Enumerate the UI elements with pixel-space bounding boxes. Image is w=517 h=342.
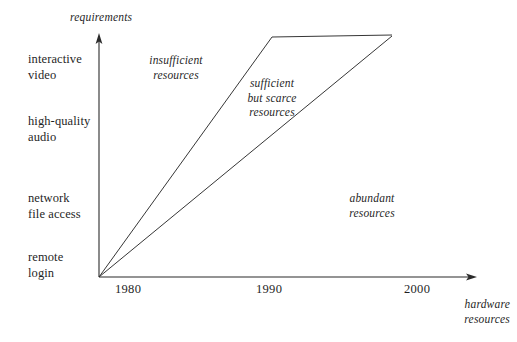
y-category-label-line1: network bbox=[28, 190, 81, 206]
y-category-remote-login: remote login bbox=[28, 249, 63, 281]
x-tick-1980: 1980 bbox=[115, 281, 141, 297]
region-label-line1: insufficient bbox=[126, 53, 226, 68]
y-category-label-line2: login bbox=[28, 265, 63, 281]
region-label-line3: resources bbox=[222, 105, 322, 120]
y-category-label-line1: remote bbox=[28, 249, 63, 265]
y-category-high-quality-audio: high-quality audio bbox=[28, 113, 90, 145]
region-label-insufficient-resources: insufficient resources bbox=[126, 53, 226, 82]
y-category-label-line2: file access bbox=[28, 206, 81, 222]
region-label-abundant-resources: abundant resources bbox=[322, 191, 422, 220]
y-category-network-file-access: network file access bbox=[28, 190, 81, 222]
region-label-line2: resources bbox=[322, 206, 422, 221]
diagram-canvas: requirements hardware resources interact… bbox=[0, 0, 517, 342]
x-axis-title-line2: resources bbox=[390, 312, 510, 327]
y-category-label-line2: audio bbox=[28, 129, 90, 145]
region-label-line1: abundant bbox=[322, 191, 422, 206]
region-label-line2: resources bbox=[126, 68, 226, 83]
y-category-label-line1: interactive bbox=[28, 51, 82, 67]
y-category-interactive-video: interactive video bbox=[28, 51, 82, 83]
x-tick-1990: 1990 bbox=[256, 281, 282, 297]
x-tick-2000: 2000 bbox=[404, 281, 430, 297]
region-label-line2: but scarce bbox=[222, 91, 322, 106]
y-category-label-line1: high-quality bbox=[28, 113, 90, 129]
y-category-label-line2: video bbox=[28, 67, 82, 83]
y-axis-title: requirements bbox=[70, 10, 132, 25]
region-label-sufficient-but-scarce-resources: sufficient but scarce resources bbox=[222, 76, 322, 120]
x-axis-title-line1: hardware bbox=[390, 297, 510, 312]
region-label-line1: sufficient bbox=[222, 76, 322, 91]
x-axis-title: hardware resources bbox=[390, 297, 510, 326]
